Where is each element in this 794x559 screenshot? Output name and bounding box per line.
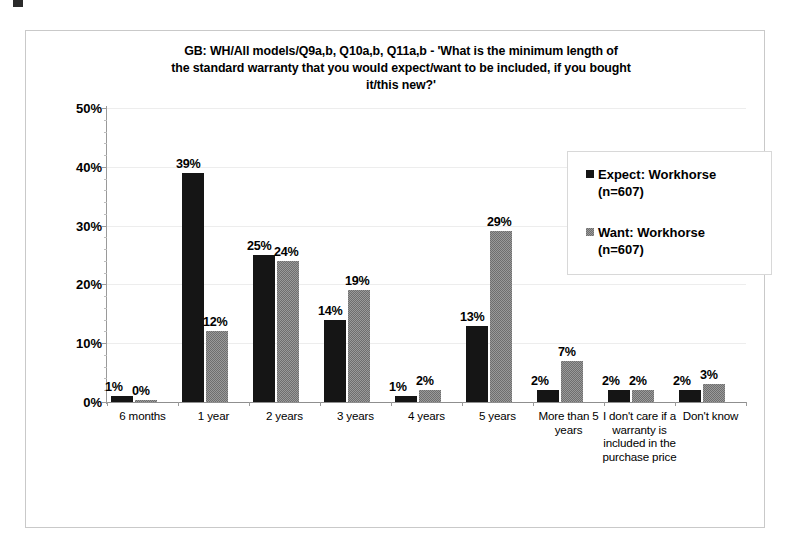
bar-group: 13%29% [462,108,533,402]
legend-entry-want: Want: Workhorse (n=607) [586,224,766,258]
bar-value-label: 24% [274,245,299,259]
y-axis-tick-label: 50% [76,101,102,116]
bar-expect [466,326,488,402]
x-axis-line [106,402,747,403]
chart-title-line-2: the standard warranty that you would exp… [121,60,681,77]
bar-want [206,331,228,402]
x-axis-tick [178,402,179,406]
bar-want [277,261,299,402]
bar-expect [324,320,346,402]
bar-want [561,361,583,402]
legend-entry-expect: Expect: Workhorse (n=607) [586,166,766,200]
bar-expect [253,255,275,402]
x-axis-tick [675,402,676,406]
bar-value-label: 19% [345,274,370,288]
chart-title-line-3: it/this new?' [121,77,681,94]
x-axis-tick [391,402,392,406]
bar-want [419,390,441,402]
bar-expect [679,390,701,402]
legend-entry-expect-label: Expect: Workhorse [598,167,716,182]
bar-want [135,400,157,402]
bar-value-label: 13% [460,310,485,324]
bar-expect [537,390,559,402]
x-axis-tick [746,402,747,406]
bar-value-label: 29% [487,215,512,229]
bar-expect [111,396,133,402]
bar-value-label: 2% [416,374,434,388]
bar-expect [608,390,630,402]
y-axis-tick-label: 20% [76,277,102,292]
bar-value-label: 25% [247,239,272,253]
chart-title: GB: WH/All models/Q9a,b, Q10a,b, Q11a,b … [121,43,681,94]
bar-group: 1%0% [107,108,178,402]
x-axis-tick [107,402,108,406]
bar-group: 39%12% [178,108,249,402]
x-axis-tick [604,402,605,406]
bar-value-label: 2% [673,374,691,388]
x-axis-category-label: Don't know [669,409,752,423]
y-axis-tick-labels: 0%10%20%30%40%50% [46,108,102,402]
gray-square-icon [586,228,594,236]
bar-value-label: 3% [700,368,718,382]
y-axis-tick-label: 10% [76,336,102,351]
bar-value-label: 1% [105,380,123,394]
legend-entry-expect-sublabel: (n=607) [598,183,766,200]
y-axis-tick-label: 30% [76,218,102,233]
bar-want [348,290,370,402]
bar-value-label: 1% [389,380,407,394]
bar-value-label: 2% [629,374,647,388]
x-axis-tick [462,402,463,406]
bar-want [703,384,725,402]
scan-artifact [13,0,23,7]
bar-want [490,231,512,402]
bar-group: 25%24% [249,108,320,402]
black-square-icon [586,170,594,178]
y-axis-tick-label: 40% [76,159,102,174]
bar-value-label: 2% [602,374,620,388]
bar-value-label: 12% [203,315,228,329]
bar-group: 1%2% [391,108,462,402]
bar-value-label: 39% [176,157,201,171]
bar-group: 14%19% [320,108,391,402]
legend-entry-want-sublabel: (n=607) [598,241,766,258]
chart-legend: Expect: Workhorse (n=607) Want: Workhors… [567,151,772,275]
chart-title-line-1: GB: WH/All models/Q9a,b, Q10a,b, Q11a,b … [121,43,681,60]
bar-value-label: 2% [531,374,549,388]
x-axis-tick [249,402,250,406]
x-axis-category-labels: 6 months1 year2 years3 years4 years5 yea… [107,409,746,549]
chart-frame: GB: WH/All models/Q9a,b, Q10a,b, Q11a,b … [25,30,765,528]
bar-value-label: 14% [318,304,343,318]
bar-expect [182,173,204,402]
x-axis-tick [320,402,321,406]
x-axis-tick [533,402,534,406]
legend-entry-want-label: Want: Workhorse [598,225,705,240]
bar-value-label: 0% [132,384,150,398]
bar-value-label: 7% [558,345,576,359]
bar-want [632,390,654,402]
bar-expect [395,396,417,402]
y-axis-tick-label: 0% [83,395,102,410]
